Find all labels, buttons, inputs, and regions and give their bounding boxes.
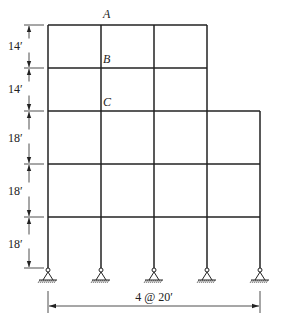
pin-icon [152, 268, 156, 272]
pin-icon [46, 268, 50, 272]
arrow-icon [49, 304, 56, 308]
arrow-icon [27, 26, 31, 32]
arrow-icon [27, 104, 31, 110]
arrow-icon [27, 261, 31, 267]
support-triangle [96, 272, 106, 280]
arrow-icon [27, 112, 31, 118]
story-height-label-3: 18′ [8, 131, 23, 145]
joint-label-c: C [103, 95, 112, 109]
support-triangle [202, 272, 212, 280]
supports [38, 268, 269, 283]
pin-support [250, 268, 269, 283]
pin-icon [205, 268, 209, 272]
support-triangle [255, 272, 265, 280]
arrow-icon [27, 69, 31, 75]
arrow-icon [27, 218, 31, 224]
story-height-label-2: 14′ [8, 82, 23, 96]
frame-members [48, 25, 260, 268]
joint-label-a: A [102, 7, 111, 21]
support-triangle [149, 272, 159, 280]
arrow-icon [27, 61, 31, 67]
story-height-label-5: 18′ [8, 237, 23, 251]
joint-label-b: B [103, 52, 111, 66]
pin-support [38, 268, 57, 283]
pin-icon [99, 268, 103, 272]
support-triangle [43, 272, 53, 280]
arrow-icon [27, 210, 31, 216]
bay-width-label: 4 @ 20′ [135, 290, 173, 304]
pin-support [197, 268, 216, 283]
arrow-icon [252, 304, 259, 308]
story-height-label-1: 14′ [8, 39, 23, 53]
arrow-icon [27, 157, 31, 163]
pin-icon [258, 268, 262, 272]
pin-support [144, 268, 163, 283]
frame-diagram: A B C 14′ 14′ 18′ 18′ 18′ 4 @ 20′ [0, 0, 285, 326]
pin-support [91, 268, 110, 283]
story-height-label-4: 18′ [8, 184, 23, 198]
arrow-icon [27, 165, 31, 171]
